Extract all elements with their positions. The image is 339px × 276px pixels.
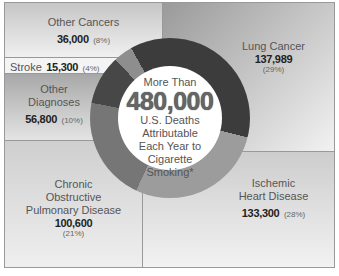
other-diagnoses-label-2: Diagnoses	[5, 96, 103, 109]
ischemic-label-1: Ischemic	[213, 177, 334, 190]
stroke-label: Stroke	[10, 61, 42, 73]
other-diagnoses-value: 56,800	[25, 113, 57, 125]
center-total: 480,000	[118, 89, 222, 114]
other-cancers-label: Other Cancers	[5, 16, 162, 29]
donut-center: More Than 480,000 U.S. Deaths Attributab…	[118, 66, 222, 170]
lung-value: 137,989	[213, 53, 334, 65]
copd-label-2: Obstructive	[5, 191, 142, 204]
copd-label-3: Pulmonary Disease	[5, 204, 142, 217]
other-cancers-pct: (8%)	[93, 36, 110, 45]
center-line-5: Cigarette	[118, 153, 222, 166]
copd-pct: (21%)	[5, 229, 142, 238]
lung-label: Lung Cancer	[213, 40, 334, 53]
box-other-diagnoses: Other Diagnoses 56,800 (10%)	[4, 73, 104, 141]
copd-value: 100,600	[5, 217, 142, 229]
stroke-value: 15,300	[46, 61, 78, 73]
stroke-pct: (4%)	[83, 64, 100, 73]
center-line-2: U.S. Deaths	[118, 114, 222, 127]
other-cancers-value: 36,000	[57, 33, 89, 45]
ischemic-label-2: Heart Disease	[213, 190, 334, 203]
ischemic-pct: (28%)	[284, 210, 305, 219]
center-line-6: Smoking*	[118, 166, 222, 179]
other-diagnoses-label-1: Other	[5, 83, 103, 96]
ischemic-value: 133,300	[242, 207, 280, 219]
center-line-3: Attributable	[118, 127, 222, 140]
other-diagnoses-pct: (10%)	[61, 116, 82, 125]
center-line-4: Each Year to	[118, 140, 222, 153]
